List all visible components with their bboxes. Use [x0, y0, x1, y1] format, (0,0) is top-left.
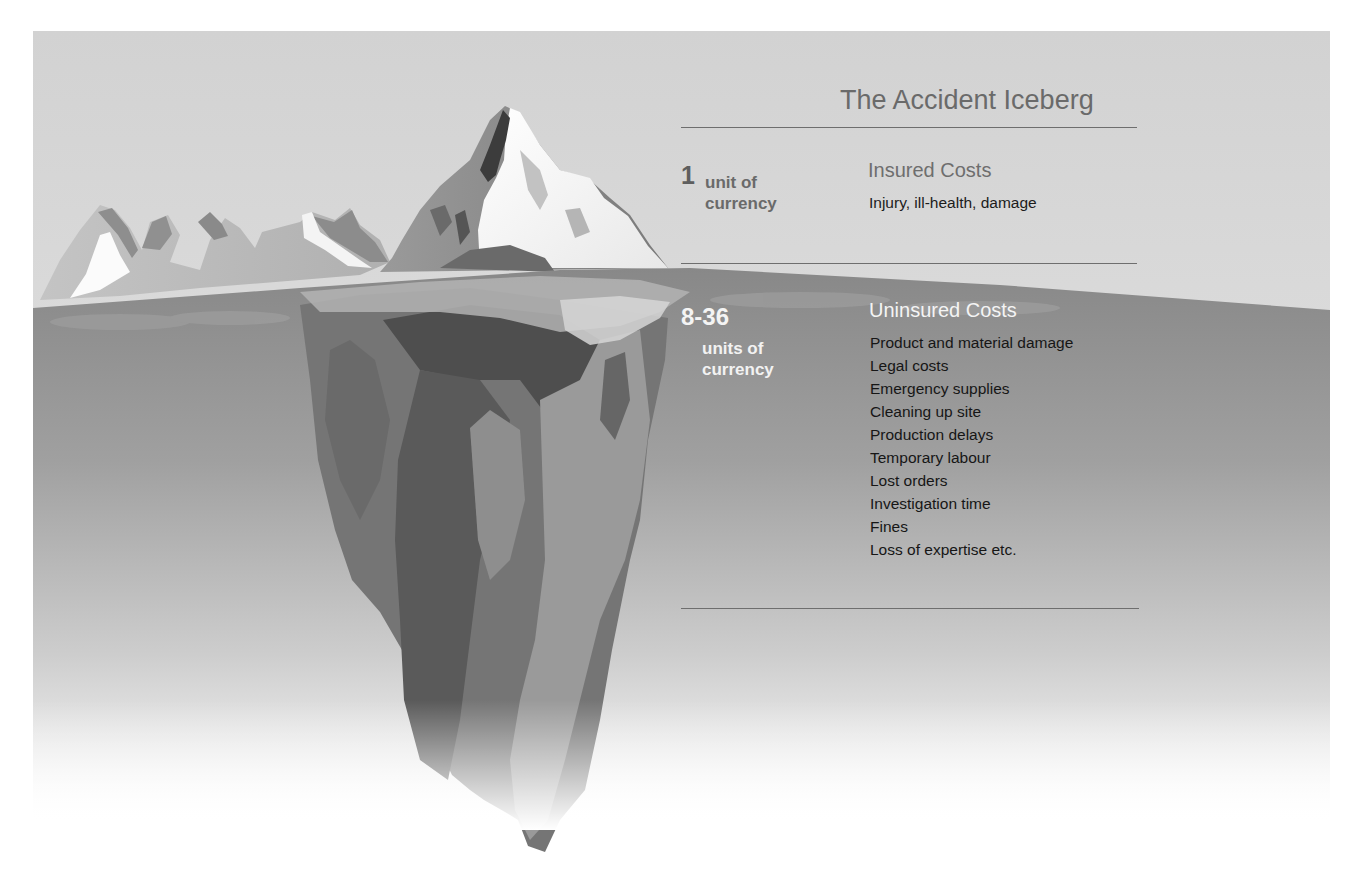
list-item: Product and material damage	[870, 331, 1073, 354]
list-item: Cleaning up site	[870, 400, 1073, 423]
list-item: Investigation time	[870, 492, 1073, 515]
uninsured-amount: 8-36	[681, 305, 729, 329]
uninsured-heading: Uninsured Costs	[869, 300, 1017, 320]
bottom-fade	[33, 700, 1330, 830]
page-title: The Accident Iceberg	[840, 87, 1094, 114]
divider-middle	[681, 263, 1137, 264]
insured-description: Injury, ill-health, damage	[869, 192, 1049, 214]
list-item: Legal costs	[870, 354, 1073, 377]
list-item: Production delays	[870, 423, 1073, 446]
iceberg-illustration	[0, 0, 1348, 876]
divider-top	[681, 127, 1137, 128]
list-item: Fines	[870, 515, 1073, 538]
list-item: Temporary labour	[870, 446, 1073, 469]
divider-bottom	[681, 608, 1139, 609]
list-item: Loss of expertise etc.	[870, 538, 1073, 561]
insured-unit: unit of currency	[705, 172, 825, 214]
list-item: Emergency supplies	[870, 377, 1073, 400]
insured-amount: 1	[681, 163, 695, 188]
uninsured-unit: units of currency	[702, 338, 822, 380]
list-item: Lost orders	[870, 469, 1073, 492]
uninsured-cost-list: Product and material damage Legal costs …	[870, 331, 1073, 561]
insured-heading: Insured Costs	[868, 160, 991, 180]
